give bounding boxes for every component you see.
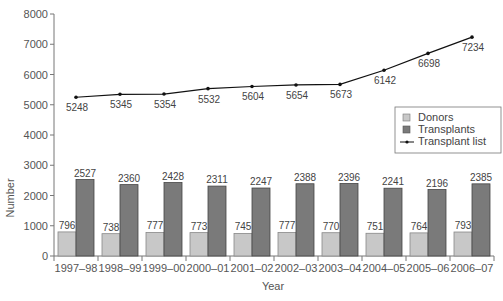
transplants-bar bbox=[384, 188, 402, 256]
transplants-bar bbox=[340, 184, 358, 256]
line-point bbox=[426, 52, 430, 56]
bar-value-label: 796 bbox=[59, 220, 76, 231]
x-tick-label: 2003–04 bbox=[319, 262, 362, 274]
x-tick-label: 1999–00 bbox=[143, 262, 186, 274]
x-tick-label: 2001–02 bbox=[231, 262, 274, 274]
bar-value-label: 773 bbox=[191, 221, 208, 232]
y-axis: 010002000300040005000600070008000 bbox=[24, 8, 54, 262]
legend-label-transplants: Transplants bbox=[418, 123, 476, 135]
transplants-swatch-icon bbox=[403, 126, 410, 133]
transplants-bar bbox=[472, 184, 490, 256]
transplants-bar bbox=[252, 188, 270, 256]
bar-value-label: 738 bbox=[103, 222, 120, 233]
line-point bbox=[470, 35, 474, 39]
transplants-bar bbox=[296, 184, 314, 256]
line-point bbox=[382, 68, 386, 72]
donors-bar bbox=[454, 232, 472, 256]
line-value-label: 5604 bbox=[242, 91, 265, 102]
transplants-bar bbox=[76, 180, 94, 256]
bar-value-label: 2428 bbox=[162, 171, 185, 182]
legend-label-donors: Donors bbox=[418, 111, 454, 123]
x-tick-label: 1998–99 bbox=[99, 262, 142, 274]
donors-bar bbox=[102, 234, 120, 256]
line-dot-icon bbox=[405, 140, 408, 143]
line-point bbox=[162, 92, 166, 96]
transplants-bar bbox=[120, 185, 138, 256]
y-tick-label: 4000 bbox=[24, 129, 48, 141]
bar-value-label: 770 bbox=[323, 221, 340, 232]
donors-bar bbox=[410, 233, 428, 256]
line-value-label: 5532 bbox=[198, 94, 221, 105]
bar-value-label: 2360 bbox=[118, 173, 141, 184]
x-tick-label: 2000–01 bbox=[187, 262, 230, 274]
bar-value-label: 777 bbox=[279, 220, 296, 231]
bar-value-label: 793 bbox=[455, 220, 472, 231]
transplants-bar bbox=[208, 186, 226, 256]
x-axis-title: Year bbox=[262, 280, 285, 292]
y-tick-label: 5000 bbox=[24, 99, 48, 111]
x-tick-label: 2004–05 bbox=[363, 262, 406, 274]
line-value-label: 7234 bbox=[462, 42, 485, 53]
line-point bbox=[294, 83, 298, 87]
line-value-label: 5248 bbox=[66, 102, 89, 113]
bar-value-label: 751 bbox=[367, 221, 384, 232]
y-axis-title: Number bbox=[4, 178, 16, 217]
donors-bar bbox=[366, 233, 384, 256]
line-value-label: 5654 bbox=[286, 90, 309, 101]
donors-bar bbox=[234, 233, 252, 256]
legend: Donors Transplants Transplant list bbox=[395, 107, 501, 153]
bar-value-label: 2527 bbox=[74, 168, 97, 179]
line-point bbox=[206, 87, 210, 91]
chart: 010002000300040005000600070008000 1997–9… bbox=[0, 0, 503, 301]
bar-value-label: 2385 bbox=[470, 172, 493, 183]
bars: 7962527738236077724287732311745224777723… bbox=[58, 168, 493, 256]
x-axis: 1997–981998–991999–002000–012001–022002–… bbox=[54, 256, 494, 274]
x-tick-label: 2005–06 bbox=[407, 262, 450, 274]
bar-value-label: 2241 bbox=[382, 176, 405, 187]
bar-value-label: 2311 bbox=[206, 174, 228, 185]
y-tick-label: 6000 bbox=[24, 69, 48, 81]
x-tick-label: 1997–98 bbox=[55, 262, 98, 274]
x-tick-label: 2006–07 bbox=[451, 262, 494, 274]
line-point bbox=[74, 95, 78, 99]
donors-bar bbox=[322, 233, 340, 256]
y-tick-label: 3000 bbox=[24, 159, 48, 171]
line-value-label: 5354 bbox=[154, 99, 177, 110]
line-value-label: 6142 bbox=[374, 75, 397, 86]
bar-value-label: 2247 bbox=[250, 176, 273, 187]
donors-bar bbox=[146, 232, 164, 256]
line-point bbox=[118, 93, 122, 97]
legend-label-transplant-list: Transplant list bbox=[418, 135, 486, 147]
donors-swatch-icon bbox=[403, 114, 410, 121]
bar-value-label: 745 bbox=[235, 221, 252, 232]
transplants-bar bbox=[428, 190, 446, 256]
transplant-list-line: 5248534553545532560456545673614266987234 bbox=[66, 35, 485, 113]
bar-value-label: 2196 bbox=[426, 178, 449, 189]
bar-value-label: 764 bbox=[411, 221, 428, 232]
transplants-bar bbox=[164, 183, 182, 256]
bar-value-label: 2388 bbox=[294, 172, 317, 183]
donors-bar bbox=[58, 232, 76, 256]
y-tick-label: 1000 bbox=[24, 220, 48, 232]
y-tick-label: 7000 bbox=[24, 38, 48, 50]
y-tick-label: 0 bbox=[42, 250, 48, 262]
y-tick-label: 2000 bbox=[24, 190, 48, 202]
donors-bar bbox=[190, 233, 208, 256]
bar-value-label: 2396 bbox=[338, 172, 361, 183]
donors-bar bbox=[278, 232, 296, 256]
y-tick-label: 8000 bbox=[24, 8, 48, 20]
line-value-label: 5673 bbox=[330, 89, 353, 100]
line-point bbox=[338, 83, 342, 87]
line-value-label: 6698 bbox=[418, 58, 441, 69]
bar-value-label: 777 bbox=[147, 220, 164, 231]
x-tick-label: 2002–03 bbox=[275, 262, 318, 274]
line-value-label: 5345 bbox=[110, 99, 133, 110]
line-point bbox=[250, 85, 254, 89]
